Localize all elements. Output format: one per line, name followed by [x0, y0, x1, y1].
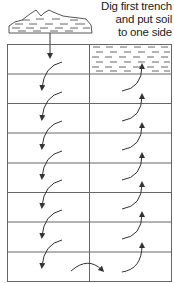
curved-arrows-right	[122, 66, 142, 272]
curved-arrows-left	[42, 62, 62, 266]
curved-arrow-icon	[42, 210, 62, 236]
curved-arrow-icon	[122, 245, 142, 272]
curved-arrow-icon	[122, 155, 142, 180]
curved-arrow-icon	[122, 184, 142, 209]
double-digging-diagram	[0, 0, 174, 283]
curved-arrow-icon	[42, 62, 62, 88]
curved-arrow-icon	[122, 66, 142, 91]
curved-arrow-icon	[122, 96, 142, 121]
curved-arrow-icon	[42, 121, 62, 147]
curved-arrow-icon	[42, 92, 62, 118]
trench-grid	[8, 45, 172, 282]
crossing-arrow-icon	[71, 263, 102, 271]
curved-arrow-icon	[122, 214, 142, 239]
curved-arrow-icon	[42, 240, 62, 266]
curved-arrow-icon	[42, 151, 62, 177]
curved-arrow-icon	[122, 125, 142, 150]
soil-pile-icon	[9, 10, 92, 33]
filled-trench	[92, 47, 170, 71]
